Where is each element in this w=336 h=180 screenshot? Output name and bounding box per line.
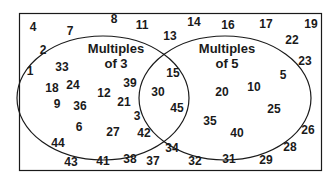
number-only-set-a: 18 <box>45 82 58 94</box>
number-outside: 28 <box>283 141 296 153</box>
number-intersection: 30 <box>151 86 164 98</box>
number-only-set-b: 25 <box>267 103 280 115</box>
set-b-label-line2: of 5 <box>199 56 255 71</box>
number-only-set-a: 12 <box>97 87 110 99</box>
number-outside: 34 <box>165 142 178 154</box>
number-outside: 19 <box>304 18 317 30</box>
number-only-set-a: 9 <box>54 98 61 110</box>
number-outside: 23 <box>298 55 311 67</box>
number-outside: 29 <box>259 154 272 166</box>
set-b-label-line1: Multiples <box>199 41 255 56</box>
number-only-set-a: 6 <box>76 121 83 133</box>
set-a-label-line2: of 3 <box>88 56 144 71</box>
set-b-label: Multiples of 5 <box>199 41 255 71</box>
number-outside: 41 <box>96 155 109 167</box>
number-outside: 22 <box>285 34 298 46</box>
number-only-set-a: 27 <box>106 126 119 138</box>
number-only-set-b: 20 <box>215 86 228 98</box>
set-a-label: Multiples of 3 <box>88 41 144 71</box>
number-only-set-a: 42 <box>137 127 150 139</box>
number-only-set-b: 35 <box>203 115 216 127</box>
number-outside: 32 <box>188 155 201 167</box>
number-only-set-a: 33 <box>55 61 68 73</box>
number-only-set-a: 39 <box>123 77 136 89</box>
number-only-set-a: 3 <box>134 110 141 122</box>
number-only-set-a: 24 <box>66 79 79 91</box>
number-outside: 11 <box>136 19 149 31</box>
number-outside: 26 <box>301 124 314 136</box>
number-only-set-b: 5 <box>280 69 287 81</box>
number-outside: 44 <box>51 137 64 149</box>
number-outside: 13 <box>163 30 176 42</box>
set-a-label-line1: Multiples <box>88 41 144 56</box>
number-only-set-b: 40 <box>230 127 243 139</box>
number-outside: 4 <box>30 21 37 33</box>
number-outside: 31 <box>222 153 235 165</box>
number-outside: 38 <box>123 153 136 165</box>
number-outside: 37 <box>146 155 159 167</box>
number-outside: 8 <box>111 13 118 25</box>
number-only-set-a: 21 <box>117 96 130 108</box>
number-intersection: 45 <box>170 102 183 114</box>
number-only-set-b: 10 <box>247 81 260 93</box>
number-intersection: 15 <box>166 67 179 79</box>
venn-diagram: Multiples of 3 Multiples of 5 4781113141… <box>0 0 336 180</box>
number-outside: 17 <box>259 18 272 30</box>
number-outside: 14 <box>187 16 200 28</box>
number-outside: 43 <box>64 156 77 168</box>
number-outside: 1 <box>27 65 34 77</box>
number-outside: 16 <box>221 19 234 31</box>
number-only-set-a: 36 <box>73 100 86 112</box>
number-outside: 2 <box>40 44 47 56</box>
number-outside: 7 <box>67 25 74 37</box>
